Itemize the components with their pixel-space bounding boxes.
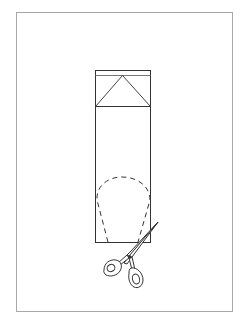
folded-top-triangle [96, 76, 151, 107]
instruction-diagram [0, 0, 249, 319]
scissors-icon [104, 222, 158, 288]
dashed-cut-line [97, 177, 150, 242]
